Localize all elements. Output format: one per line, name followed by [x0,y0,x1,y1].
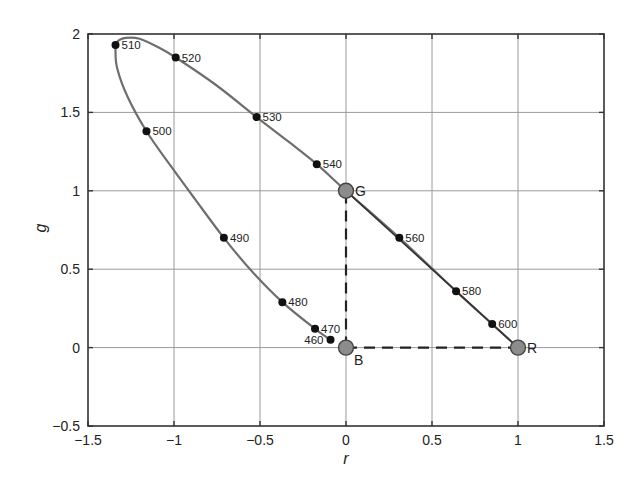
wavelength-label: 600 [498,318,517,330]
spectral-locus [116,38,518,348]
wavelength-label: 460 [304,334,323,346]
wavelength-marker [253,113,261,121]
wavelength-marker [142,127,150,135]
x-tick-label: −0.5 [246,432,274,448]
wavelength-marker [220,234,228,242]
wavelength-label: 580 [462,285,481,297]
chromaticity-chart: 460470480490500510520530540560580600 GBR… [0,0,635,494]
wavelength-marker [452,287,460,295]
y-axis-label: g [32,223,49,232]
x-tick-label: −1 [166,432,182,448]
wavelength-label: 490 [230,232,249,244]
spectral-locus-curve [116,38,518,348]
y-tick-label: 1.5 [61,104,81,120]
x-tick-label: 1 [514,432,522,448]
wavelength-marker [327,336,335,344]
wavelength-points: 460470480490500510520530540560580600 [112,39,518,346]
wavelength-marker [313,160,321,168]
primary-label-r: R [527,340,537,356]
x-tick-label: 0.5 [422,432,442,448]
wavelength-label: 560 [405,232,424,244]
y-tick-label: −0.5 [52,418,80,434]
x-tick-label: 1.5 [594,432,614,448]
primary-label-b: B [354,352,363,368]
primary-marker-r [511,340,526,355]
wavelength-label: 500 [152,125,171,137]
wavelength-label: 520 [182,52,201,64]
primary-marker-b [339,340,354,355]
x-tick-label: −1.5 [74,432,102,448]
y-tick-label: 0.5 [61,261,81,277]
wavelength-label: 470 [321,323,340,335]
wavelength-label: 540 [323,158,342,170]
primary-label-g: G [355,183,366,199]
y-axis-ticks: −0.500.511.52 [52,26,604,434]
y-tick-label: 1 [72,183,80,199]
wavelength-label: 480 [288,296,307,308]
wavelength-marker [172,54,180,62]
wavelength-label: 530 [263,111,282,123]
y-tick-label: 2 [72,26,80,42]
wavelength-marker [278,298,286,306]
wavelength-marker [112,41,120,49]
y-tick-label: 0 [72,340,80,356]
wavelength-marker [488,320,496,328]
x-axis-label: r [343,450,349,467]
x-axis-ticks: −1.5−1−0.500.511.5 [74,34,614,448]
wavelength-label: 510 [122,39,141,51]
wavelength-marker [311,325,319,333]
wavelength-marker [395,234,403,242]
x-tick-label: 0 [342,432,350,448]
primary-marker-g [339,183,354,198]
